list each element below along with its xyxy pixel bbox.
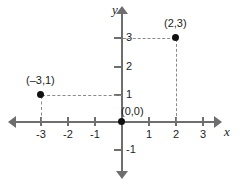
x-tick-mark-neg2 — [67, 117, 69, 126]
guide-line-horizontal-point-neg3-1 — [42, 95, 122, 96]
x-tick-label-neg2: -2 — [56, 128, 80, 140]
point-label-2-3: (2,3) — [164, 17, 187, 29]
x-tick-label-pos1: 1 — [137, 128, 161, 140]
y-tick-mark-pos3 — [114, 37, 123, 39]
x-tick-mark-pos1 — [148, 117, 150, 126]
x-tick-label-neg1: -1 — [83, 128, 107, 140]
x-axis-left-arrowhead-icon — [8, 116, 16, 128]
plotted-point-2-3 — [172, 34, 179, 41]
plotted-point-neg3-1 — [37, 91, 44, 98]
x-tick-label-pos2: 2 — [164, 128, 188, 140]
x-axis-line — [14, 121, 219, 123]
y-tick-mark-neg1 — [114, 149, 123, 151]
y-axis-label: y — [112, 2, 118, 18]
plotted-point-origin — [118, 118, 125, 125]
x-tick-mark-neg1 — [94, 117, 96, 126]
y-tick-mark-pos2 — [114, 66, 123, 68]
x-tick-mark-pos3 — [202, 117, 204, 126]
guide-line-vertical-point-neg3-1 — [41, 96, 42, 121]
guide-line-vertical-point-2-3 — [176, 39, 177, 121]
y-tick-label-pos1: 1 — [126, 88, 132, 100]
coordinate-plane-figure: -3 -2 -1 1 2 3 3 2 1 -1 x y (2,3) (–3,1)… — [0, 0, 244, 186]
point-label-origin: (0,0) — [121, 105, 144, 117]
x-axis-label: x — [224, 124, 230, 140]
y-tick-label-pos3: 3 — [126, 31, 132, 43]
y-tick-label-neg1: -1 — [126, 143, 136, 155]
x-axis-right-arrowhead-icon — [214, 116, 222, 128]
x-tick-label-pos3: 3 — [191, 128, 215, 140]
point-label-neg3-1: (–3,1) — [26, 74, 55, 86]
y-tick-label-pos2: 2 — [126, 60, 132, 72]
x-tick-label-neg3: -3 — [29, 128, 53, 140]
y-axis-down-arrowhead-icon — [116, 171, 128, 179]
guide-line-horizontal-point-2-3 — [123, 38, 175, 39]
